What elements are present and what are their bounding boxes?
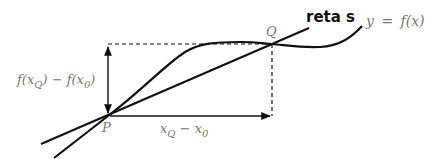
horizontal-difference-label: xQ − x0 <box>160 121 209 139</box>
vertical-difference-label: f(xQ) − f(x0) <box>16 72 95 90</box>
secant-line-diagram: y = f(x) reta s Q P f(xQ) − f(x0) xQ − x… <box>0 0 438 165</box>
curve-label: y = f(x) <box>365 13 425 29</box>
point-p-label: P <box>101 120 111 135</box>
point-q-label: Q <box>266 24 277 39</box>
secant-line-label: reta s <box>306 8 355 26</box>
